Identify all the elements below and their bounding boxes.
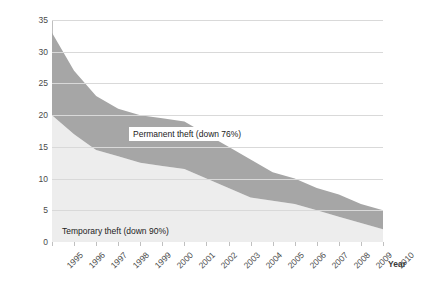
x-axis-tick-label: 2004 [263,250,283,270]
x-axis-tick-label: 2003 [241,250,261,270]
x-axis-tickmark [295,242,296,246]
x-axis-tickmark [229,242,230,246]
x-axis-tickmark [361,242,362,246]
x-axis-tick-label: 2002 [219,250,239,270]
annotation-temporary-theft: Temporary theft (down 90%) [58,224,173,238]
x-axis-tickmark [140,242,141,246]
x-axis-tickmark [184,242,185,246]
x-axis-title: Year [388,259,406,269]
x-axis-tick-label: 2000 [175,250,195,270]
x-axis-tickmark [162,242,163,246]
x-axis-tick-label: 1997 [109,250,129,270]
x-axis-tick-label: 2008 [351,250,371,270]
x-axis-tick-label: 2001 [197,250,217,270]
x-axis-tickmark [383,242,384,246]
x-axis-tick-label: 1996 [87,250,107,270]
x-axis-tick-label: 1995 [65,250,85,270]
x-axis-tick-label: 2007 [329,250,349,270]
x-axis-tickmark [317,242,318,246]
x-axis-tickmark [96,242,97,246]
x-axis-tickmark [118,242,119,246]
x-axis-tickmark [339,242,340,246]
area-chart: Rate per 1000 vehicle-owning households … [0,0,424,289]
x-axis-tick-labels: 1995199619971998199920002001200220032004… [0,0,424,289]
x-axis-tickmark [74,242,75,246]
x-axis-tickmark [273,242,274,246]
x-axis-tick-label: 1998 [131,250,151,270]
x-axis-tick-label: 2005 [285,250,305,270]
annotation-permanent-theft: Permanent theft (down 76%) [129,127,245,141]
x-axis-tickmark [206,242,207,246]
x-axis-tickmark [251,242,252,246]
x-axis-tick-label: 1999 [153,250,173,270]
x-axis-tick-label: 2006 [307,250,327,270]
x-axis-tickmark [52,242,53,246]
